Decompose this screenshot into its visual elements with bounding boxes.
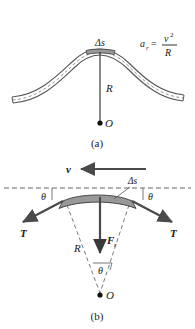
center-label-a: O [105, 117, 113, 129]
angle-right-label: θ [148, 191, 153, 202]
radius-label-b: R [73, 242, 81, 254]
road-end-right [183, 95, 184, 101]
center-dot-a [97, 120, 102, 125]
velocity-label: v [66, 163, 71, 175]
radial-force-vector: F r [100, 197, 117, 253]
tension-left-label: T [20, 227, 28, 239]
road-end-left [12, 97, 13, 103]
force-subscript: r [114, 241, 117, 249]
panel-a: Δs R O a r = v 2 R (a) [0, 0, 195, 165]
equation-numerator-exponent: 2 [170, 31, 174, 39]
panel-b: v Δs T T θ [0, 160, 195, 329]
equation-equals: = [151, 38, 157, 49]
angle-center-label: θ [98, 265, 103, 276]
delta-s-annotation: Δs [114, 176, 138, 199]
radius-dashed-right [100, 205, 129, 293]
tension-left-vector: T [20, 201, 63, 239]
velocity-vector: v [66, 163, 146, 175]
tension-left-arrow [23, 201, 63, 222]
tension-right-arrow [132, 201, 172, 222]
caption-b: (b) [91, 310, 104, 323]
equation-lhs-subscript: r [146, 44, 149, 52]
center-dot-b [97, 292, 102, 297]
radius-dashed-left [67, 205, 100, 293]
road-edge-lower [13, 55, 183, 103]
equation-numerator-symbol: v [164, 33, 169, 44]
equation-lhs-symbol: a [140, 38, 145, 49]
center-label-b: O [106, 289, 114, 301]
angle-left-label: θ [41, 191, 46, 202]
caption-a: (a) [91, 137, 104, 150]
road-curve [12, 49, 184, 103]
equation-denominator: R [164, 47, 171, 58]
delta-s-label-a: Δs [94, 37, 105, 48]
delta-s-arc-b [59, 195, 136, 209]
physics-figure: Δs R O a r = v 2 R (a) [0, 0, 195, 329]
radius-label-a: R [105, 82, 113, 94]
tension-right-vector: T [132, 201, 178, 239]
radial-acceleration-equation: a r = v 2 R [140, 31, 177, 58]
delta-s-label-b: Δs [127, 176, 138, 186]
tension-right-label: T [170, 227, 178, 239]
